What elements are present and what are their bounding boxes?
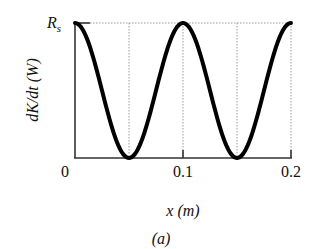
grid xyxy=(75,23,291,158)
x-tick-label-0: 0 xyxy=(61,163,69,180)
x-axis-label: x (m) xyxy=(165,202,199,220)
figure-caption: (a) xyxy=(152,230,171,248)
chart: Rs dK/dt (W) 0 0.1 0.2 x (m) (a) xyxy=(0,0,321,249)
y-tick-label-rs: Rs xyxy=(46,14,61,34)
y-tick-subscript: s xyxy=(57,22,61,34)
x-tick-label-0.2: 0.2 xyxy=(281,163,301,180)
y-axis-label: dK/dt (W) xyxy=(24,58,42,122)
y-tick-main: R xyxy=(46,14,57,31)
x-tick-label-0.1: 0.1 xyxy=(173,163,193,180)
